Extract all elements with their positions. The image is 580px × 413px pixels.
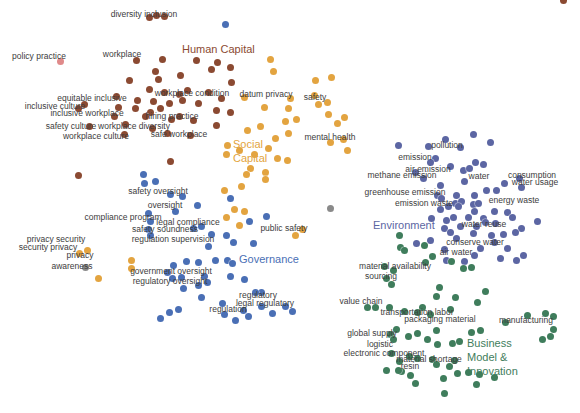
point-label: methane emission [368, 171, 437, 180]
data-point-governance [289, 308, 296, 315]
point-label: conserve water [446, 238, 504, 247]
cluster-label-governance: Governance [239, 253, 299, 267]
data-point-business-model [473, 381, 480, 388]
data-point-business-model [429, 253, 436, 260]
data-point-social-capital [282, 118, 289, 125]
data-point-business-model [547, 333, 554, 340]
data-point-social-capital [231, 206, 238, 213]
data-point-human-capital [227, 64, 234, 71]
data-point-business-model [454, 370, 461, 377]
data-point-human-capital [132, 105, 139, 112]
point-label: compliance program [84, 213, 161, 222]
data-point-environment [497, 255, 504, 262]
data-point-social-capital [243, 171, 250, 178]
data-point-business-model [433, 293, 440, 300]
point-label: mental health [304, 133, 355, 142]
data-point-environment [487, 139, 494, 146]
data-point-human-capital [152, 68, 159, 75]
data-point-governance [223, 232, 230, 239]
data-point-edge [560, 0, 567, 4]
data-point-governance [195, 259, 202, 266]
data-point-business-model [441, 390, 448, 397]
point-label: manufacturing [499, 316, 553, 325]
data-point-governance [229, 260, 236, 267]
data-point-environment [447, 229, 454, 236]
data-point-human-capital [155, 76, 162, 83]
point-label: privacy [67, 251, 94, 260]
data-point-environment [443, 217, 450, 224]
data-point-business-model [452, 294, 459, 301]
data-point-environment [513, 257, 520, 264]
data-point-business-model [539, 336, 546, 343]
data-point-business-model [448, 258, 455, 265]
data-point-business-model [412, 380, 419, 387]
cluster-label-environment: Environment [373, 219, 435, 233]
data-point-human-capital [134, 97, 141, 104]
cluster-label-business-model-innovation: Business Model & Innovation [467, 337, 518, 378]
data-point-business-model [421, 242, 428, 249]
data-point-human-capital [228, 79, 235, 86]
data-point-human-capital [214, 59, 221, 66]
data-point-social-capital [267, 56, 274, 63]
point-label: air water [440, 248, 473, 257]
data-point-environment [472, 159, 479, 166]
data-point-business-model [474, 299, 481, 306]
data-point-business-model [460, 265, 467, 272]
data-point-social-capital [241, 208, 248, 215]
data-point-governance [232, 317, 239, 324]
data-point-human-capital [146, 86, 153, 93]
point-label: safe workplace [151, 130, 208, 139]
data-point-environment [461, 178, 468, 185]
data-point-social-capital [224, 142, 231, 149]
data-point-environment [491, 208, 498, 215]
data-point-environment [512, 229, 519, 236]
data-point-governance [166, 309, 173, 316]
data-point-business-model [433, 327, 440, 334]
data-point-environment [470, 230, 477, 237]
point-label: datum privacy [240, 90, 293, 99]
data-point-environment [518, 225, 525, 232]
data-point-business-model [407, 372, 414, 379]
point-label: value chain [339, 297, 382, 306]
data-point-business-model [414, 330, 421, 337]
data-point-human-capital [195, 100, 202, 107]
data-point-business-model [405, 333, 412, 340]
point-label: workplace [103, 50, 141, 59]
data-point-governance [152, 178, 159, 185]
point-label: awareness [51, 262, 92, 271]
data-point-governance [157, 315, 164, 322]
data-point-human-capital [167, 158, 174, 165]
data-point-business-model [477, 327, 484, 334]
data-point-governance [140, 171, 147, 178]
data-point-environment [395, 142, 402, 149]
data-point-environment [504, 245, 511, 252]
data-point-governance [241, 276, 248, 283]
data-point-environment [455, 203, 462, 210]
data-point-environment [453, 192, 460, 199]
topic-cluster-scatter-plot: diversity inclusionpolicy practiceworkpl… [0, 0, 580, 413]
data-point-social-capital [262, 176, 269, 183]
data-point-social-capital [270, 68, 277, 75]
data-point-human-capital [227, 109, 234, 116]
data-point-governance [198, 294, 205, 301]
data-point-business-model [401, 247, 408, 254]
point-label: sourcing [365, 272, 397, 281]
data-point-governance [250, 240, 257, 247]
point-label: emission waste [395, 199, 453, 208]
data-point-social-capital [293, 116, 300, 123]
data-point-environment [501, 180, 508, 187]
point-label: safety oversight [128, 187, 188, 196]
data-point-environment [483, 187, 490, 194]
point-label: inclusive workplace [50, 109, 123, 118]
data-point-social-capital [238, 183, 245, 190]
data-point-governance [194, 202, 201, 209]
point-label: global supply [347, 329, 397, 338]
data-point-governance [227, 195, 234, 202]
data-point-social-capital [257, 123, 264, 130]
point-label: workplace condition [155, 89, 230, 98]
data-point-environment [470, 131, 477, 138]
data-point-environment [413, 240, 420, 247]
point-label: public safety [260, 224, 307, 233]
data-point-human-capital [75, 172, 82, 179]
data-point-human-capital [213, 122, 220, 129]
